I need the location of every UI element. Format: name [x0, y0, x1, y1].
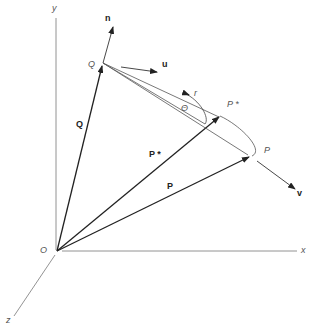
- z-axis: [14, 255, 55, 316]
- theta-arrow: [184, 93, 189, 95]
- arc-P-star-to-P: [220, 116, 256, 156]
- vector-u-label: u: [162, 60, 168, 69]
- line-Q-to-P-star: [103, 63, 219, 117]
- x-axis-label: x: [301, 246, 306, 255]
- r-label: r: [194, 89, 197, 98]
- line-Q-through: [103, 63, 205, 124]
- vector-u: [121, 67, 157, 72]
- origin-label: O: [40, 246, 47, 255]
- vector-Q: [57, 66, 102, 251]
- point-Q-label: Q: [88, 60, 95, 69]
- vector-v: [257, 161, 295, 189]
- point-P-star-label: P *: [227, 100, 239, 109]
- vector-v-label: v: [297, 189, 302, 198]
- point-P-label: P: [264, 146, 270, 155]
- vector-n-label: n: [105, 14, 111, 23]
- vector-P-star-label: P *: [149, 150, 161, 159]
- line-Q-to-P: [103, 63, 248, 155]
- diagram-canvas: [0, 0, 310, 329]
- vector-Q-label: Q: [76, 120, 83, 129]
- theta-label: Θ: [181, 104, 188, 113]
- vector-n: [103, 27, 113, 63]
- z-axis-label: z: [6, 316, 11, 325]
- y-axis-label: y: [52, 4, 57, 13]
- vector-P-label: P: [167, 182, 173, 191]
